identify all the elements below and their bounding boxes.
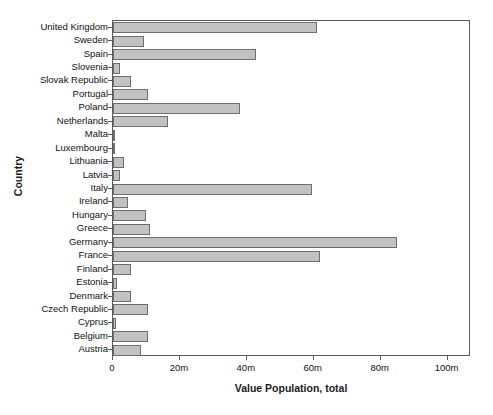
x-axis-tick-label: 80m	[370, 362, 388, 373]
bar	[113, 237, 397, 248]
bar	[113, 210, 146, 221]
x-axis-tick	[313, 356, 314, 360]
y-axis-label: Sweden	[4, 35, 108, 45]
y-axis-label: Italy	[4, 183, 108, 193]
bar	[113, 116, 168, 127]
y-axis-label: Germany	[4, 237, 108, 247]
y-axis-label: Portugal	[4, 89, 108, 99]
y-axis-label: Spain	[4, 49, 108, 59]
bar	[113, 224, 150, 235]
plot-area: m = million	[112, 20, 470, 356]
y-axis-label: Estonia	[4, 277, 108, 287]
y-axis-label: United Kingdom	[4, 22, 108, 32]
bar	[113, 197, 128, 208]
y-axis-label: Lithuania	[4, 156, 108, 166]
y-axis-label: Luxembourg	[4, 143, 108, 153]
bar	[113, 184, 312, 195]
x-axis-title: Value Population, total	[112, 382, 470, 394]
y-axis-label: Slovak Republic	[4, 75, 108, 85]
bar	[113, 103, 240, 114]
y-axis-label: Latvia	[4, 170, 108, 180]
bar	[113, 89, 148, 100]
bar	[113, 318, 116, 329]
bar	[113, 331, 148, 342]
bar	[113, 291, 131, 302]
bar	[113, 36, 144, 47]
y-axis-label: Finland	[4, 264, 108, 274]
y-axis-label: Greece	[4, 223, 108, 233]
bar-chart: Country United KingdomSwedenSpainSloveni…	[0, 0, 493, 415]
x-axis-tick-label: 60m	[303, 362, 321, 373]
bar	[113, 304, 148, 315]
y-axis-label: France	[4, 250, 108, 260]
y-axis-label: Poland	[4, 102, 108, 112]
bar	[113, 157, 124, 168]
y-axis-label: Netherlands	[4, 116, 108, 126]
bar	[113, 130, 115, 141]
x-axis-tick-label: 20m	[170, 362, 188, 373]
x-axis-tick-label: 0	[109, 362, 114, 373]
bar	[113, 49, 256, 60]
bar	[113, 63, 120, 74]
x-axis-tick	[380, 356, 381, 360]
bar	[113, 22, 317, 33]
y-axis-label: Denmark	[4, 291, 108, 301]
bar	[113, 76, 131, 87]
x-axis-tick-label: 100m	[435, 362, 459, 373]
x-axis-tick	[179, 356, 180, 360]
y-axis-label: Slovenia	[4, 62, 108, 72]
y-axis-label: Malta	[4, 129, 108, 139]
x-axis-tick	[112, 356, 113, 360]
bar	[113, 143, 115, 154]
x-axis-tick-label: 40m	[237, 362, 255, 373]
y-axis-labels: United KingdomSwedenSpainSloveniaSlovak …	[0, 20, 108, 356]
bar	[113, 278, 117, 289]
y-axis-label: Ireland	[4, 196, 108, 206]
y-axis-label: Belgium	[4, 331, 108, 341]
x-axis-tick	[447, 356, 448, 360]
y-axis-label: Cyprus	[4, 317, 108, 327]
x-axis-tick	[246, 356, 247, 360]
y-axis-label: Hungary	[4, 210, 108, 220]
bar	[113, 345, 141, 356]
bar	[113, 170, 120, 181]
bar	[113, 251, 320, 262]
bar	[113, 264, 131, 275]
y-axis-label: Austria	[4, 344, 108, 354]
y-axis-label: Czech Republic	[4, 304, 108, 314]
